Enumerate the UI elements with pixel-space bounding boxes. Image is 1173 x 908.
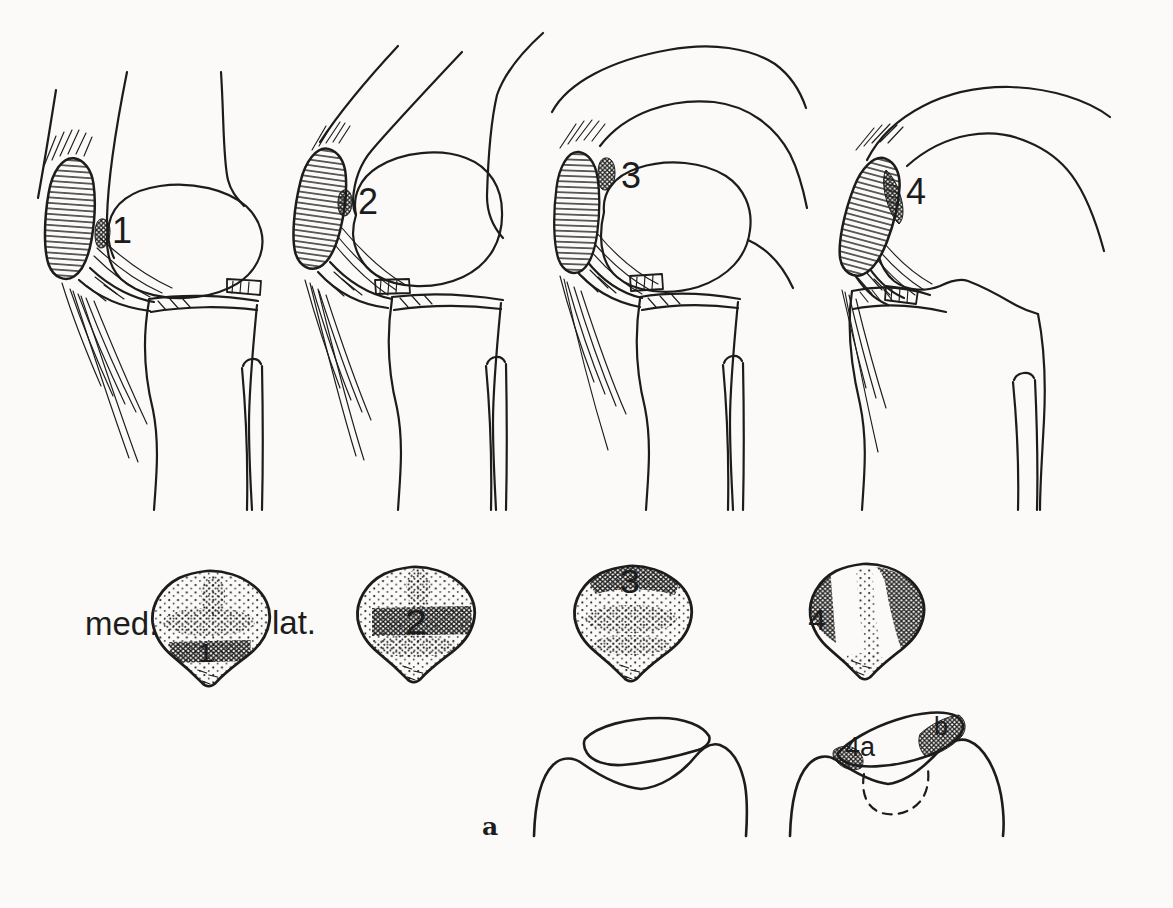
lateral-label: lat. bbox=[272, 604, 316, 641]
patella-rear-2: 2 bbox=[357, 567, 474, 682]
retinaculum-long-fibers bbox=[560, 276, 626, 450]
tibia-anterior-edge bbox=[637, 299, 649, 510]
stage-1-label: 1 bbox=[112, 210, 132, 251]
tibia-posterior-edge bbox=[730, 302, 738, 510]
tibia-anterior-edge bbox=[145, 301, 157, 510]
femur-trochlea-outline bbox=[534, 744, 747, 836]
stage-4-label: 4 bbox=[906, 171, 926, 212]
fibula bbox=[486, 357, 507, 510]
retinaculum-fibers bbox=[336, 228, 404, 295]
stage-3-label: 3 bbox=[621, 155, 641, 196]
tibial-plateau bbox=[640, 294, 740, 310]
patella-rear-1: 1 bbox=[152, 571, 269, 686]
quadriceps-tendon-fibers bbox=[560, 120, 605, 148]
femur-posterior-line bbox=[221, 72, 244, 206]
knee-flexion-diagram: 1 bbox=[0, 0, 1173, 908]
fibula bbox=[723, 356, 744, 510]
patella-rear-4: 4 bbox=[808, 564, 924, 679]
axial-view-left bbox=[534, 718, 747, 836]
meniscus-bar bbox=[375, 279, 410, 294]
thigh-inner-arc bbox=[907, 134, 1104, 251]
axial-medial-label: 4a bbox=[845, 732, 876, 762]
tibia-posterior-edge bbox=[493, 303, 501, 510]
quadriceps-tendon-fibers bbox=[312, 122, 350, 150]
thigh-anterior-edge bbox=[320, 46, 398, 142]
patella-rear-3: 3 bbox=[574, 564, 691, 682]
rear-4-label: 4 bbox=[808, 603, 826, 637]
meniscus-bar bbox=[227, 279, 261, 295]
axial-lateral-label: b bbox=[934, 712, 948, 740]
contact-area-2 bbox=[338, 190, 352, 216]
femoral-condyle bbox=[876, 222, 1038, 314]
medial-label: med. bbox=[85, 605, 158, 642]
retinaculum-long-fibers bbox=[305, 280, 371, 460]
axial-view-right: 4a b bbox=[790, 712, 1004, 836]
contact-area-3 bbox=[598, 158, 615, 190]
quadriceps-tendon-fibers bbox=[856, 124, 903, 150]
fibula bbox=[242, 359, 263, 510]
fibula bbox=[1013, 373, 1037, 510]
intercondylar-notch-dashed bbox=[863, 769, 928, 814]
knee-stage-3: 3 bbox=[552, 46, 807, 510]
rear-3-label: 3 bbox=[620, 564, 640, 600]
tibia-posterior-edge bbox=[1038, 314, 1045, 510]
patella-axial-outline bbox=[584, 718, 710, 765]
tibia-posterior-edge bbox=[249, 305, 257, 510]
tibia-anterior-edge bbox=[389, 299, 401, 510]
knee-stage-4: 4 bbox=[831, 87, 1110, 510]
retinaculum-long-fibers bbox=[62, 283, 147, 462]
figure-page: 1 bbox=[0, 0, 1173, 908]
femur-posterior-line bbox=[487, 33, 543, 238]
tibial-plateau bbox=[392, 295, 503, 310]
patella-side-1 bbox=[41, 157, 98, 281]
patella-side-3 bbox=[552, 151, 601, 273]
rear-2-label: 2 bbox=[405, 602, 427, 642]
knee-stage-1: 1 bbox=[38, 72, 263, 510]
thigh-outer-arc bbox=[867, 87, 1110, 160]
knee-stage-2: 2 bbox=[287, 33, 543, 510]
stage-2-label: 2 bbox=[358, 181, 378, 222]
panel-a-label: a bbox=[482, 812, 498, 841]
rear-1-label: 1 bbox=[198, 638, 214, 667]
calf-posterior-line bbox=[748, 240, 793, 288]
